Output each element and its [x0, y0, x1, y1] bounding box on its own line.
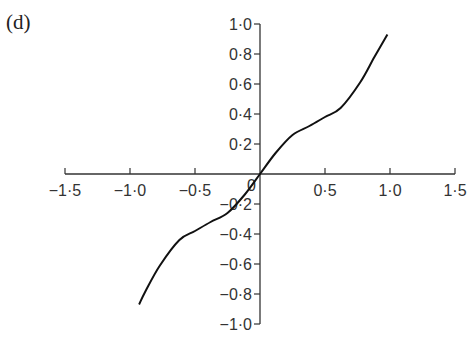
x-tick-label: 0·5: [313, 182, 336, 199]
x-tick-label: −0·5: [179, 182, 212, 199]
x-tick-label: 1·5: [443, 182, 466, 199]
y-tick-label: 0·6: [229, 76, 252, 93]
x-tick-label: −1·5: [49, 182, 82, 199]
y-tick-label: −1·0: [220, 316, 253, 333]
y-tick-label: 0·4: [229, 106, 252, 123]
chart: −1·5−1·0−0·50·51·01·51·00·80·60·40·2−0·2…: [0, 0, 475, 348]
y-tick-label: 0·2: [229, 136, 252, 153]
x-tick-label: 1·0: [378, 182, 401, 199]
y-tick-label: −0·8: [220, 286, 253, 303]
data-curve: [139, 35, 387, 305]
y-tick-label: −0·4: [220, 226, 253, 243]
x-tick-label: −1·0: [114, 182, 147, 199]
y-tick-label: 1·0: [229, 16, 252, 33]
y-tick-label: −0·6: [220, 256, 253, 273]
y-tick-label: 0·8: [229, 46, 252, 63]
